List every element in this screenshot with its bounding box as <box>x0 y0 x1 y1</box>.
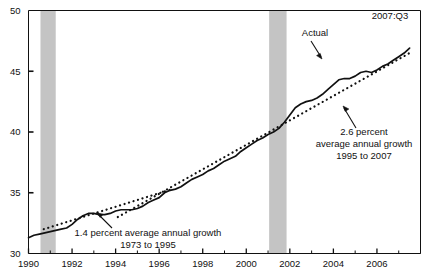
actual-label: Actual <box>302 27 328 38</box>
y-axis-tick-labels: 3035404550 <box>10 5 21 259</box>
shaded-recession-bands <box>40 11 286 254</box>
x-tick-label: 1992 <box>61 258 82 269</box>
x-tick-label: 2002 <box>279 258 300 269</box>
x-tick-label: 1990 <box>18 258 39 269</box>
y-tick-label: 50 <box>10 5 21 16</box>
x-tick-label: 2000 <box>236 258 257 269</box>
productivity-chart: 3035404550 19901992199419961998200020022… <box>0 0 427 278</box>
y-tick-label: 40 <box>10 126 21 137</box>
growth-1-line-1: 1.4 percent average annual growth <box>75 227 222 238</box>
y-tick-label: 35 <box>10 187 21 198</box>
actual-arrow-head <box>317 53 322 59</box>
x-tick-label: 1998 <box>192 258 213 269</box>
x-tick-label: 1994 <box>105 258 126 269</box>
growth-2-arrow-head <box>343 106 349 111</box>
y-tick-label: 45 <box>10 66 21 77</box>
growth-2-line-1: 2.6 percent <box>340 126 388 137</box>
date-stamp: 2007:Q3 <box>372 10 408 21</box>
series-trend-1973-1995 <box>44 189 172 229</box>
growth-2-line-2: average annual growth <box>316 138 413 149</box>
y-axis-ticks <box>29 71 34 193</box>
growth-2-line-3: 1995 to 2007 <box>336 150 391 161</box>
chart-canvas: 3035404550 19901992199419961998200020022… <box>0 0 427 278</box>
x-axis-tick-labels: 199019921994199619982000200220042006 <box>18 258 388 269</box>
chart-annotations: 2007:Q3Actual1.4 percent average annual … <box>75 10 413 250</box>
x-axis-ticks <box>29 249 421 254</box>
annotation-arrows <box>97 41 356 228</box>
recession-band <box>40 11 55 254</box>
x-tick-label: 2004 <box>323 258 344 269</box>
x-tick-label: 2006 <box>366 258 387 269</box>
x-tick-label: 1996 <box>149 258 170 269</box>
growth-1-line-2: 1973 to 1995 <box>120 239 175 250</box>
